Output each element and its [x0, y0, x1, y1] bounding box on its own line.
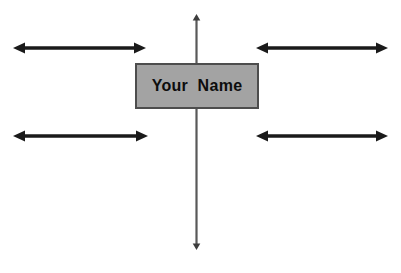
- branch-bottom-right-left-arrowhead: [256, 131, 268, 142]
- branch-bottom-right-right-arrowhead: [376, 131, 388, 142]
- branch-bottom-right-arrow[interactable]: [256, 131, 388, 142]
- branch-top-right-left-arrowhead: [256, 43, 268, 54]
- branch-bottom-left-left-arrowhead: [13, 131, 25, 142]
- vertical-axis: [193, 14, 201, 250]
- branch-top-left-right-arrowhead: [134, 43, 146, 54]
- center-node-label: Your Name: [152, 78, 243, 94]
- vertical-axis-bottom-arrowhead: [193, 244, 201, 251]
- branch-top-left-left-arrowhead: [13, 43, 25, 54]
- diagram-graphics: [0, 0, 401, 273]
- branch-bottom-left-arrow[interactable]: [13, 131, 148, 142]
- diagram-canvas: Your Name: [0, 0, 401, 273]
- branch-bottom-left-right-arrowhead: [136, 131, 148, 142]
- branch-top-left-arrow[interactable]: [13, 43, 146, 54]
- branch-top-right-right-arrowhead: [376, 43, 388, 54]
- branch-top-right-arrow[interactable]: [256, 43, 388, 54]
- center-node[interactable]: Your Name: [135, 63, 259, 109]
- vertical-axis-top-arrowhead: [193, 14, 201, 21]
